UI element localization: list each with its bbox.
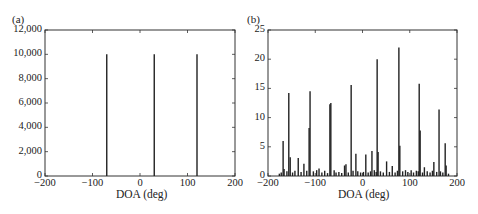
y-tick-label: 25 [224,23,265,34]
y-tick-label: 15 [224,81,265,92]
x-tick-label: −200 [34,177,56,188]
x-tick-label: 100 [177,177,199,188]
chart-panel-a: (a) 02,0004,0006,0008,00010,00012,000 −2… [0,0,240,214]
x-tick-label: −100 [304,177,326,188]
x-axis-label-a: DOA (deg) [116,188,167,200]
y-tick-label: 5 [224,140,265,151]
y-tick-label: 8,000 [1,72,42,83]
x-tick-label: 100 [399,177,421,188]
x-tick-label: 0 [352,177,374,188]
chart-panel-b: (b) 0510152025 −200−1000100200 DOA (deg) [240,0,478,214]
x-tick-label: −200 [257,177,279,188]
plot-frame [45,30,235,176]
x-tick-label: 200 [446,177,468,188]
y-tick-label: 2,000 [1,145,42,156]
y-tick-label: 10 [224,111,265,122]
y-tick-label: 20 [224,52,265,63]
y-tick-label: 4,000 [1,120,42,131]
plot-frame [268,30,457,176]
y-tick-label: 10,000 [1,47,42,58]
y-tick-label: 6,000 [1,96,42,107]
x-axis-label-b: DOA (deg) [338,188,389,200]
y-tick-label: 12,000 [1,23,42,34]
x-tick-label: −100 [82,177,104,188]
x-tick-label: 0 [129,177,151,188]
